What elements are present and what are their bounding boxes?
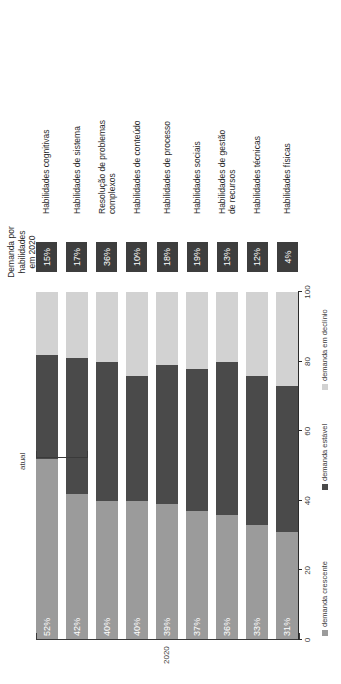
chart-legend: demanda crescentedemanda estáveldemanda …: [320, 292, 338, 640]
axis-tick-label: 100: [303, 285, 312, 298]
axis-tick-mark: [298, 430, 302, 431]
demand-2020-badge: 13%: [217, 242, 238, 272]
bar-segment: [156, 365, 178, 504]
axis-tick-mark: [298, 500, 302, 501]
bar-row: 52%: [36, 292, 58, 640]
demand-2020-badge: 36%: [96, 242, 117, 272]
bar-row: 37%: [186, 292, 208, 640]
category-label: Habilidades sociais: [187, 0, 208, 214]
x-axis: 020406080100: [298, 292, 320, 640]
legend-item: demanda estável: [320, 424, 329, 490]
badges-column: 15%17%36%10%18%19%13%12%4%: [36, 232, 298, 272]
category-label: Habilidades de sistema: [66, 0, 87, 214]
category-label: Habilidades de processo: [157, 0, 178, 214]
demand-2020-badge: 18%: [157, 242, 178, 272]
bar-row: 40%: [126, 292, 148, 640]
bar-segment: [36, 292, 58, 355]
axis-tick-label: 80: [303, 357, 312, 366]
axis-tick-label: 40: [303, 496, 312, 505]
category-label: Habilidades físicas: [277, 0, 298, 214]
category-label-column: Habilidades cognitivasHabilidades de sis…: [36, 0, 298, 214]
demand-2020-badge: 4%: [277, 242, 298, 272]
category-label: Habilidades técnicas: [247, 0, 268, 214]
bar-segment: [36, 355, 58, 459]
legend-swatch-icon: [322, 384, 328, 390]
category-label: Habilidades de conteúdo: [126, 0, 147, 214]
legend-label: demanda crescente: [320, 561, 329, 627]
axis-tick-mark: [298, 291, 302, 292]
category-label: Habilidades cognitivas: [36, 0, 57, 214]
plot-area: 52%42%40%40%39%37%36%33%31%: [36, 292, 298, 640]
axis-tick-mark: [298, 569, 302, 570]
category-label: Habilidades de gestão de recursos: [217, 0, 238, 214]
period-label-atual: atual: [18, 453, 27, 470]
bar-row: 33%: [246, 292, 268, 640]
legend-label: demanda em declínio: [320, 309, 329, 381]
bar-segment: [96, 292, 118, 362]
axis-line: [298, 292, 299, 640]
bar-row: 42%: [66, 292, 88, 640]
bar-segment: [216, 292, 238, 362]
bar-row: 31%: [276, 292, 298, 640]
bar-segment: [66, 292, 88, 358]
badges-column-title: Demanda por habilidades em 2020: [6, 224, 38, 280]
bar-segment: [126, 292, 148, 376]
bar-segment: [216, 362, 238, 515]
demand-2020-badge: 12%: [247, 242, 268, 272]
bar-segment: [66, 358, 88, 494]
axis-tick-label: 60: [303, 427, 312, 436]
axis-tick-label: 0: [303, 638, 312, 642]
bar-segment: [96, 362, 118, 501]
period-label-2020: 2020: [162, 646, 171, 664]
bar-segment: [246, 376, 268, 526]
legend-swatch-icon: [322, 484, 328, 490]
demand-2020-badge: 17%: [66, 242, 87, 272]
bar-segment: [276, 386, 298, 532]
legend-label: demanda estável: [320, 424, 329, 481]
rotated-figure-wrapper: Habilidades cognitivasHabilidades de sis…: [0, 0, 341, 684]
axis-tick-mark: [298, 639, 302, 640]
bar-row: 40%: [96, 292, 118, 640]
legend-swatch-icon: [322, 630, 328, 636]
axis-tick-label: 20: [303, 566, 312, 575]
legend-item: demanda em declínio: [320, 309, 329, 390]
category-label: Resolução de problemas complexos: [96, 0, 117, 214]
bars-container: 52%42%40%40%39%37%36%33%31%: [36, 292, 298, 640]
demand-2020-badge: 19%: [187, 242, 208, 272]
chart-figure: Habilidades cognitivasHabilidades de sis…: [0, 0, 341, 684]
demand-2020-badge: 15%: [36, 242, 57, 272]
bar-segment: [276, 292, 298, 386]
bar-segment: [156, 292, 178, 365]
bar-segment: [36, 459, 58, 640]
bar-segment: [186, 369, 208, 512]
bar-row: 36%: [216, 292, 238, 640]
bracket-atual: [36, 451, 88, 458]
bar-segment: [126, 376, 148, 501]
bracket-2020: [36, 633, 300, 640]
bar-segment: [186, 292, 208, 369]
axis-tick-mark: [298, 361, 302, 362]
demand-2020-badge: 10%: [126, 242, 147, 272]
bar-segment: [246, 292, 268, 376]
legend-item: demanda crescente: [320, 561, 329, 636]
bar-row: 39%: [156, 292, 178, 640]
